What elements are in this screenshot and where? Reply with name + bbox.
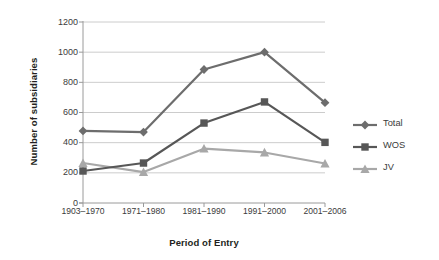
- legend-marker-diamond-icon: [352, 117, 378, 129]
- x-tick-label: 1903–1970: [61, 206, 104, 216]
- series-jv: [78, 144, 329, 176]
- x-tick-label: 2001–2006: [303, 206, 346, 216]
- chart-legend: TotalWOSJV: [352, 112, 438, 178]
- legend-item-wos[interactable]: WOS: [352, 134, 438, 156]
- legend-label: Total: [383, 118, 403, 128]
- x-tick-label: 1971–1980: [122, 206, 165, 216]
- legend-item-total[interactable]: Total: [352, 112, 438, 134]
- legend-item-jv[interactable]: JV: [352, 156, 438, 178]
- x-tick-label: 1991–2000: [243, 206, 286, 216]
- chart-figure: Number of subsidiaries 02004006008001000…: [0, 0, 439, 260]
- data-point-marker: [140, 159, 147, 166]
- legend-label: JV: [383, 162, 394, 172]
- x-axis-title: Period of Entry: [88, 237, 320, 248]
- x-tick-label: 1981–1990: [182, 206, 225, 216]
- x-axis-tick-labels: 1903–19701971–19801981–19901991–20002001…: [83, 206, 325, 222]
- legend-label: WOS: [383, 140, 405, 150]
- series-wos: [79, 98, 328, 174]
- data-point-marker: [361, 121, 370, 130]
- data-point-marker: [79, 167, 86, 174]
- data-point-marker: [200, 119, 207, 126]
- data-point-marker: [79, 127, 88, 136]
- data-point-marker: [321, 139, 328, 146]
- data-point-marker: [261, 98, 268, 105]
- data-point-marker: [361, 143, 368, 150]
- legend-marker-triangle-icon: [352, 161, 378, 173]
- legend-marker-square-icon: [352, 139, 378, 151]
